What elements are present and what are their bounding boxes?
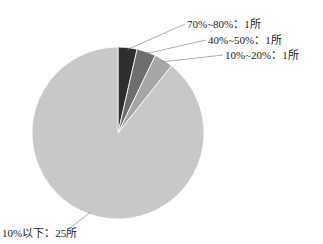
leader-line	[146, 40, 206, 54]
leader-line	[70, 212, 90, 228]
label-40-50: 40%~50%：1所	[208, 34, 282, 46]
label-below-10: 10%以下：25所	[2, 227, 77, 239]
pie-slice	[32, 47, 204, 219]
leader-line	[127, 24, 185, 50]
label-70-80: 70%~80%：1所	[187, 18, 261, 30]
label-10-20: 10%~20%：1所	[225, 49, 299, 61]
leader-line	[163, 55, 223, 62]
